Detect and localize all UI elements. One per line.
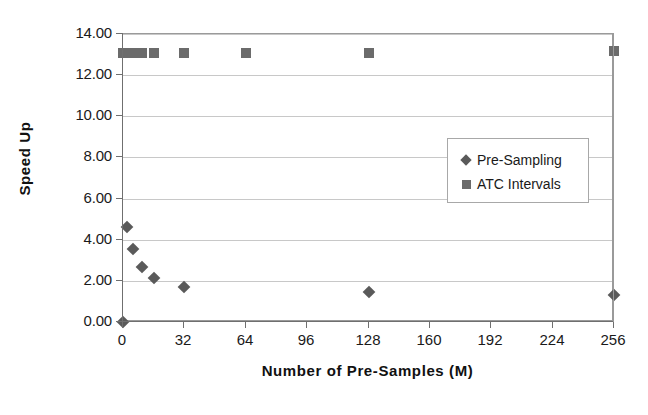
gridline	[123, 116, 612, 117]
y-tick-label: 12.00	[40, 66, 112, 81]
data-point-diamond	[136, 261, 149, 274]
x-axis-title: Number of Pre-Samples (M)	[122, 362, 613, 379]
x-tick-mark	[429, 322, 430, 328]
x-tick-label: 64	[215, 331, 275, 348]
data-point-square	[241, 48, 251, 58]
data-point-square	[179, 48, 189, 58]
y-axis-line	[122, 33, 123, 322]
x-tick-label: 192	[460, 331, 520, 348]
legend-item-atc-intervals: ATC Intervals	[458, 172, 588, 196]
x-tick-mark	[183, 322, 184, 328]
data-point-square	[364, 48, 374, 58]
y-axis-title: Speed Up	[16, 89, 33, 229]
x-tick-mark	[368, 322, 369, 328]
data-point-diamond	[608, 288, 621, 301]
x-tick-mark	[490, 322, 491, 328]
data-point-diamond	[126, 243, 139, 256]
y-tick-label: 8.00	[40, 148, 112, 163]
y-tick-mark	[116, 198, 122, 199]
gridline	[123, 240, 612, 241]
y-tick-label: 10.00	[40, 107, 112, 122]
y-tick-label: 0.00	[40, 313, 112, 328]
legend-label-atc-intervals: ATC Intervals	[474, 176, 561, 192]
x-tick-label: 128	[338, 331, 398, 348]
data-point-square	[609, 46, 619, 56]
legend-label-pre-sampling: Pre-Sampling	[474, 152, 562, 168]
x-tick-label: 224	[522, 331, 582, 348]
gridline	[123, 75, 612, 76]
x-tick-mark	[552, 322, 553, 328]
x-tick-mark	[306, 322, 307, 328]
y-tick-label: 4.00	[40, 231, 112, 246]
square-marker-icon	[458, 180, 474, 189]
legend-item-pre-sampling: Pre-Sampling	[458, 148, 588, 172]
y-tick-mark	[116, 280, 122, 281]
data-point-diamond	[362, 286, 375, 299]
x-tick-mark	[613, 322, 614, 328]
y-tick-mark	[116, 33, 122, 34]
plot-right-border	[613, 33, 614, 322]
x-tick-label: 32	[153, 331, 213, 348]
data-point-diamond	[178, 280, 191, 293]
diamond-marker-icon	[458, 156, 474, 164]
gridline	[123, 281, 612, 282]
x-tick-mark	[122, 322, 123, 328]
y-tick-mark	[116, 156, 122, 157]
x-tick-label: 96	[276, 331, 336, 348]
data-point-diamond	[117, 316, 130, 329]
data-point-square	[137, 48, 147, 58]
x-tick-mark	[245, 322, 246, 328]
y-tick-mark	[116, 115, 122, 116]
y-tick-mark	[116, 74, 122, 75]
y-tick-label: 6.00	[40, 190, 112, 205]
gridline	[123, 34, 612, 35]
speed-up-scatter-chart: 0.002.004.006.008.0010.0012.0014.00 0326…	[0, 0, 648, 415]
data-point-diamond	[147, 271, 160, 284]
data-point-square	[128, 48, 138, 58]
y-tick-label: 14.00	[40, 25, 112, 40]
x-tick-label: 0	[92, 331, 152, 348]
data-point-square	[149, 48, 159, 58]
y-tick-label: 2.00	[40, 272, 112, 287]
legend: Pre-Sampling ATC Intervals	[447, 138, 589, 203]
y-tick-mark	[116, 239, 122, 240]
x-tick-label: 160	[399, 331, 459, 348]
x-tick-label: 256	[583, 331, 643, 348]
